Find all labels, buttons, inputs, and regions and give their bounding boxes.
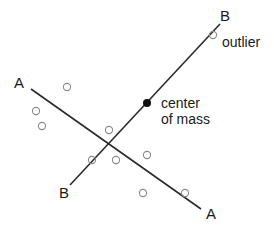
data-point [181,189,188,196]
center-of-mass-point [143,99,151,107]
scatter-axes-diagram: A A B B outlier center of mass [0,0,274,227]
axis-a-start-label: A [14,74,24,91]
axis-a-end-label: A [206,205,216,222]
outlier-label: outlier [222,34,260,50]
axis-b-end-label: B [220,7,230,24]
data-point [63,83,70,90]
data-point [105,126,112,133]
center-of-mass-label-line2: of mass [161,111,210,127]
data-point [143,151,150,158]
data-point [112,156,119,163]
data-point [38,122,45,129]
center-of-mass-label-line1: center [161,95,200,111]
data-point [139,189,146,196]
data-point [32,107,39,114]
axis-b-start-label: B [59,184,69,201]
